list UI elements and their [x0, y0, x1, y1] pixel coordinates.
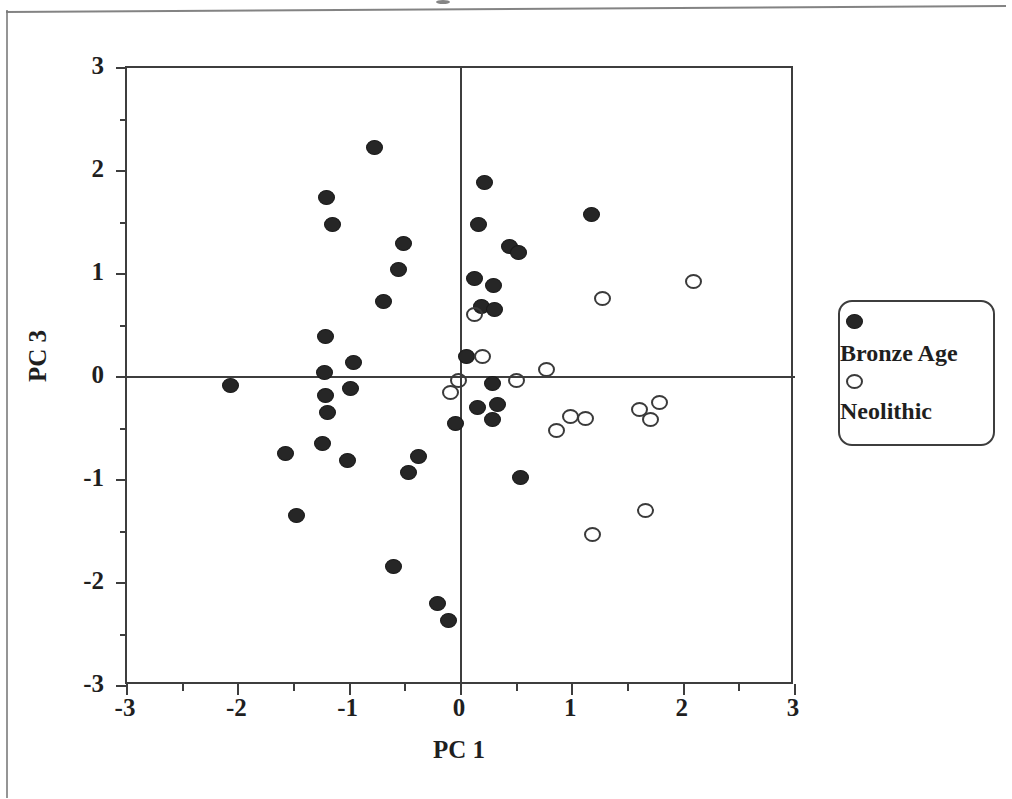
data-point-bronze-age — [469, 400, 486, 415]
y-axis-tick — [120, 531, 127, 533]
data-point-bronze-age — [395, 236, 412, 251]
data-point-neolithic — [584, 527, 601, 542]
scatter-plot-figure: -3-2-10123 -3-2-10123 PC 1 PC 3 Bronze A… — [0, 0, 1012, 799]
data-point-bronze-age — [345, 355, 362, 370]
y-axis-tick — [120, 428, 127, 430]
x-axis-tick — [627, 684, 629, 691]
legend-label-neolithic: Neolithic — [840, 398, 932, 425]
y-axis-tick-label: -2 — [64, 567, 104, 595]
data-point-bronze-age — [476, 175, 493, 190]
data-point-bronze-age — [317, 388, 334, 403]
y-axis-tick-label: 2 — [64, 155, 104, 183]
data-point-neolithic — [474, 349, 491, 364]
y-axis-tick-label: -3 — [64, 670, 104, 698]
data-point-bronze-age — [318, 190, 335, 205]
data-point-bronze-age — [440, 613, 457, 628]
data-point-bronze-age — [288, 508, 305, 523]
x-axis-tick-label: -3 — [115, 694, 136, 722]
x-axis-tick — [738, 684, 740, 691]
y-axis-tick — [116, 479, 127, 481]
y-axis-tick-label: 3 — [64, 52, 104, 80]
data-point-neolithic — [651, 395, 668, 410]
x-axis-tick-label: 3 — [787, 694, 800, 722]
data-point-bronze-age — [429, 596, 446, 611]
y-axis-tick-label: -1 — [64, 464, 104, 492]
data-point-neolithic — [466, 307, 483, 322]
x-axis-tick — [516, 684, 518, 691]
data-point-bronze-age — [466, 271, 483, 286]
data-point-bronze-age — [324, 217, 341, 232]
legend-swatch-bronze-age — [846, 314, 863, 329]
x-axis-tick-label: 1 — [564, 694, 577, 722]
legend-label-bronze-age: Bronze Age — [840, 340, 958, 367]
y-axis-tick — [116, 170, 127, 172]
y-axis-tick — [120, 119, 127, 121]
data-point-bronze-age — [277, 446, 294, 461]
data-point-neolithic — [508, 373, 525, 388]
data-point-bronze-age — [375, 294, 392, 309]
data-point-neolithic — [642, 412, 659, 427]
data-point-bronze-age — [400, 465, 417, 480]
data-point-bronze-age — [485, 278, 502, 293]
y-axis-tick — [116, 376, 127, 378]
x-axis-tick-label: -1 — [337, 694, 358, 722]
data-point-neolithic — [577, 411, 594, 426]
x-axis-tick-labels: -3-2-10123 — [125, 0, 793, 1]
x-axis-title: PC 1 — [125, 736, 793, 764]
data-point-bronze-age — [484, 376, 501, 391]
y-axis-tick — [120, 325, 127, 327]
data-point-bronze-age — [512, 470, 529, 485]
data-point-bronze-age — [339, 453, 356, 468]
y-axis-tick — [120, 222, 127, 224]
y-axis-tick-labels: -3-2-10123 — [58, 66, 104, 684]
data-point-bronze-age — [319, 405, 336, 420]
x-axis-tick — [293, 684, 295, 691]
y-axis-tick — [120, 634, 127, 636]
x-axis-tick — [404, 684, 406, 691]
data-point-neolithic — [685, 274, 702, 289]
data-point-bronze-age — [458, 349, 475, 364]
y-axis-tick — [116, 685, 127, 687]
data-point-bronze-age — [484, 412, 501, 427]
y-axis-tick-label: 1 — [64, 258, 104, 286]
data-point-neolithic — [442, 385, 459, 400]
data-point-bronze-age — [314, 436, 331, 451]
legend-swatch-neolithic — [846, 374, 863, 389]
data-point-bronze-age — [366, 140, 383, 155]
x-axis-tick-label: 2 — [675, 694, 688, 722]
x-axis-tick — [182, 684, 184, 691]
data-point-bronze-age — [583, 207, 600, 222]
y-axis-tick — [116, 67, 127, 69]
data-point-bronze-age — [316, 365, 333, 380]
y-axis-tick-label: 0 — [64, 361, 104, 389]
y-axis-tick — [116, 582, 127, 584]
y-axis-title: PC 3 — [24, 286, 52, 426]
data-point-neolithic — [637, 503, 654, 518]
data-point-bronze-age — [470, 217, 487, 232]
data-point-neolithic — [548, 423, 565, 438]
data-point-bronze-age — [342, 381, 359, 396]
data-point-bronze-age — [385, 559, 402, 574]
data-point-bronze-age — [390, 262, 407, 277]
data-point-neolithic — [562, 409, 579, 424]
x-axis-tick-label: 0 — [453, 694, 466, 722]
data-point-bronze-age — [510, 245, 527, 260]
data-point-bronze-age — [489, 397, 506, 412]
data-point-bronze-age — [486, 302, 503, 317]
data-point-bronze-age — [222, 378, 239, 393]
data-point-neolithic — [594, 291, 611, 306]
y-axis-tick — [116, 273, 127, 275]
data-point-bronze-age — [317, 329, 334, 344]
x-axis-tick-label: -2 — [226, 694, 247, 722]
data-point-bronze-age — [447, 416, 464, 431]
plot-area — [125, 66, 793, 684]
legend-box: Bronze Age Neolithic — [838, 300, 995, 446]
data-point-bronze-age — [410, 449, 427, 464]
